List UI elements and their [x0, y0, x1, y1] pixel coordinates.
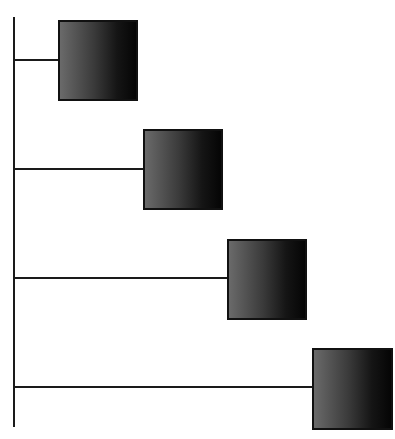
trunk-line: [13, 17, 15, 427]
square-node-1: [58, 20, 138, 101]
branch-line-4: [13, 386, 313, 388]
square-node-4: [312, 348, 393, 430]
square-node-2: [143, 129, 223, 210]
branch-line-1: [13, 59, 59, 61]
branch-line-3: [13, 277, 228, 279]
branch-line-2: [13, 168, 144, 170]
square-node-3: [227, 239, 307, 320]
